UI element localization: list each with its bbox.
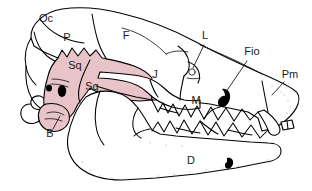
label-sq-lower: Sq	[85, 80, 98, 92]
label-j: J	[152, 68, 158, 80]
label-oc: Oc	[39, 12, 54, 24]
cranium-group	[21, 8, 299, 135]
tympanic-opening	[46, 84, 52, 91]
label-fio: Fio	[244, 45, 259, 57]
lower-molar-detail	[176, 128, 200, 133]
label-f: F	[123, 29, 130, 41]
label-pm: Pm	[282, 68, 299, 80]
external-auditory-meatus	[58, 85, 66, 97]
label-sq-upper: Sq	[68, 59, 81, 71]
label-b: B	[46, 127, 53, 139]
label-m: M	[191, 94, 200, 106]
skull-illustration: Oc P F L Fio Pm Sq Sq J M B D	[0, 0, 312, 191]
skull-diagram-figure: Oc P F L Fio Pm Sq Sq J M B D	[0, 0, 312, 191]
label-d: D	[187, 154, 195, 166]
label-p: P	[63, 31, 70, 43]
label-l: L	[202, 29, 208, 41]
